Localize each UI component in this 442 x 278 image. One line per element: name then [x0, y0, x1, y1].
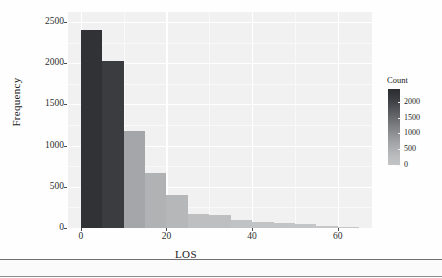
y-axis-tick-mark	[64, 63, 67, 64]
histogram-bar	[209, 215, 230, 228]
legend-tick-mark	[398, 133, 401, 134]
histogram-bar	[166, 195, 187, 228]
x-axis-tick-label: 0	[61, 232, 101, 242]
histogram-bar	[231, 220, 252, 228]
histogram-figure: 05001000150020002500 0204060 Frequency L…	[0, 0, 442, 278]
legend-tick-label: 0	[404, 161, 408, 169]
gridline-vertical-minor	[209, 12, 210, 228]
page-rule-top	[0, 259, 442, 260]
plot-panel	[68, 12, 372, 228]
page-footer-band	[0, 260, 442, 276]
legend-title: Count	[387, 76, 440, 85]
histogram-bar	[188, 214, 209, 228]
x-axis-tick-label: 60	[318, 232, 358, 242]
y-axis-tick-label: 2500	[45, 17, 64, 27]
legend-tick-mark	[398, 118, 401, 119]
histogram-bar	[274, 223, 295, 228]
legend-tick-label: 1000	[404, 129, 420, 137]
legend-tick-mark	[398, 102, 401, 103]
histogram-bar	[145, 173, 166, 228]
y-axis-tick-mark	[64, 228, 67, 229]
x-axis-tick-mark	[338, 228, 339, 231]
histogram-bar	[295, 224, 316, 228]
y-axis-tick-label: 1500	[45, 99, 64, 109]
y-axis-tick-mark	[64, 104, 67, 105]
y-axis-tick-label: 500	[50, 182, 64, 192]
gridline-horizontal	[68, 22, 372, 23]
histogram-bar	[102, 61, 123, 228]
histogram-bar	[252, 222, 273, 228]
x-axis-tick-label: 20	[146, 232, 186, 242]
legend-tick-mark	[398, 165, 401, 166]
gridline-vertical	[252, 12, 253, 228]
histogram-bar	[316, 226, 337, 228]
gridline-vertical	[338, 12, 339, 228]
legend-tick-label: 2000	[404, 98, 420, 106]
legend-tick-mark	[398, 149, 401, 150]
y-axis-tick-label: 2000	[45, 58, 64, 68]
x-axis-tick-mark	[166, 228, 167, 231]
histogram-bar	[124, 131, 145, 228]
gridline-vertical-minor	[295, 12, 296, 228]
y-axis-tick-mark	[64, 146, 67, 147]
y-axis-tick-mark	[64, 22, 67, 23]
gridline-horizontal-minor	[68, 43, 372, 44]
histogram-bar	[81, 30, 102, 228]
x-axis-tick-label: 40	[232, 232, 272, 242]
legend-tick-label: 500	[404, 145, 416, 153]
y-axis-tick-mark	[64, 187, 67, 188]
y-axis-tick-label: 1000	[45, 141, 64, 151]
legend: Count 2000150010005000	[386, 76, 440, 88]
x-axis-tick-mark	[252, 228, 253, 231]
legend-colorbar	[388, 89, 400, 165]
legend-tick-label: 1500	[404, 114, 420, 122]
page-rule-bottom	[0, 276, 442, 277]
histogram-bar	[338, 227, 359, 228]
y-axis-label: Frequency	[10, 42, 22, 162]
x-axis-tick-mark	[81, 228, 82, 231]
